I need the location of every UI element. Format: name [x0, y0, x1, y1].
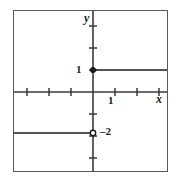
x-axis-label: x — [156, 93, 162, 105]
y-tick-label-1: 1 — [76, 64, 82, 75]
y-tick-label-minus-2: –2 — [100, 126, 111, 137]
open-endpoint-circle — [90, 130, 95, 135]
graph-figure: y x 1 1 –2 — [0, 0, 179, 183]
x-tick-label-1: 1 — [108, 95, 114, 106]
closed-endpoint-dot — [90, 67, 95, 72]
coordinate-plane-svg — [0, 0, 179, 183]
y-axis-label: y — [84, 12, 89, 24]
